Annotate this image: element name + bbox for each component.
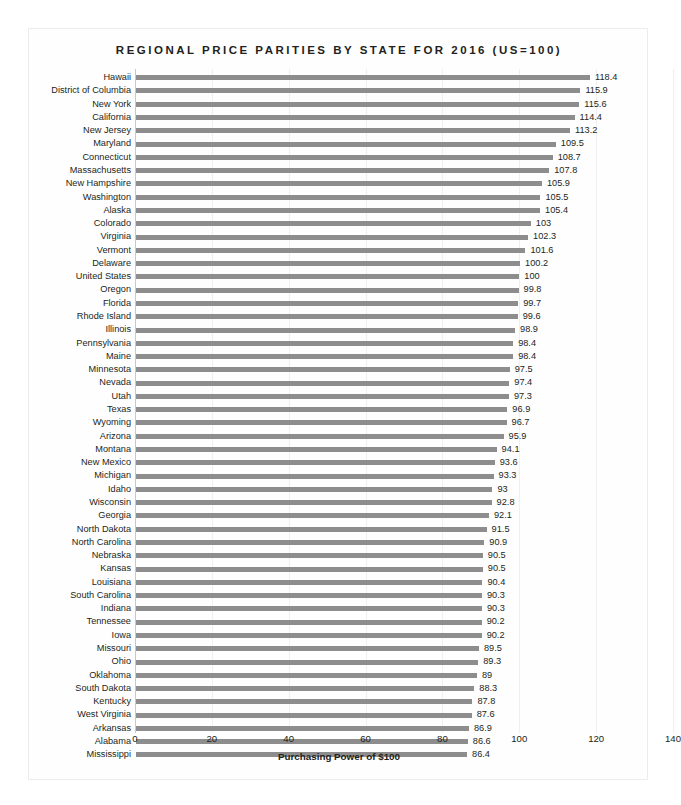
bar — [136, 420, 507, 425]
bar-row: United States100 — [29, 270, 649, 283]
bar — [136, 314, 518, 319]
category-label: Colorado — [0, 217, 131, 230]
bar-value-label: 90.9 — [489, 536, 507, 549]
x-tick-label-100: 100 — [511, 733, 527, 744]
bar-row: Virginia102.3 — [29, 230, 649, 243]
bar — [136, 195, 540, 200]
bar-row: Tennessee90.2 — [29, 615, 649, 628]
category-label: Nebraska — [0, 549, 131, 562]
category-label: Texas — [0, 403, 131, 416]
bar-row: Montana94.1 — [29, 443, 649, 456]
bar-value-label: 114.4 — [580, 111, 602, 124]
bar-row: Colorado103 — [29, 217, 649, 230]
bar-row: Idaho93 — [29, 483, 649, 496]
bar — [136, 447, 497, 452]
bar — [136, 620, 482, 625]
bar — [136, 646, 479, 651]
bar — [136, 487, 492, 492]
category-label: Wyoming — [0, 416, 131, 429]
bar — [136, 75, 590, 80]
bar-value-label: 105.9 — [547, 177, 570, 190]
bar-row: New Mexico93.6 — [29, 456, 649, 469]
bar-value-label: 99.6 — [523, 310, 541, 323]
x-tick-label-0: 0 — [132, 733, 137, 744]
category-label: Nevada — [0, 376, 131, 389]
category-label: Massachusetts — [0, 164, 131, 177]
bar-value-label: 105.4 — [545, 204, 568, 217]
bar-value-label: 109.5 — [561, 137, 584, 150]
x-tick-label-40: 40 — [283, 733, 294, 744]
bar-row: Nebraska90.5 — [29, 549, 649, 562]
bar — [136, 686, 474, 691]
bar-row: South Dakota88.3 — [29, 682, 649, 695]
bar-row: Texas96.9 — [29, 403, 649, 416]
category-label: Michigan — [0, 469, 131, 482]
category-label: California — [0, 111, 131, 124]
category-label: Utah — [0, 390, 131, 403]
category-label: North Dakota — [0, 523, 131, 536]
bar-row: Maine98.4 — [29, 350, 649, 363]
bar — [136, 713, 472, 718]
bar — [136, 513, 489, 518]
bar-row: Vermont101.6 — [29, 244, 649, 257]
bar-value-label: 89.5 — [484, 642, 502, 655]
category-label: Maine — [0, 350, 131, 363]
x-axis-ticks: 020406080100120140 — [29, 733, 649, 753]
category-label: Kentucky — [0, 695, 131, 708]
bar — [136, 168, 549, 173]
category-label: Kansas — [0, 562, 131, 575]
bar-row: Alaska105.4 — [29, 204, 649, 217]
category-label: United States — [0, 270, 131, 283]
bar-row: Oregon99.8 — [29, 283, 649, 296]
bar — [136, 394, 509, 399]
category-label: Illinois — [0, 323, 131, 336]
bar-row: District of Columbia115.9 — [29, 84, 649, 97]
bar-value-label: 90.3 — [487, 589, 505, 602]
bar — [136, 301, 518, 306]
category-label: New Jersey — [0, 124, 131, 137]
bar-value-label: 118.4 — [595, 71, 617, 84]
bar-value-label: 96.7 — [512, 416, 530, 429]
category-label: Connecticut — [0, 151, 131, 164]
bar-value-label: 102.3 — [533, 230, 556, 243]
bar-value-label: 108.7 — [558, 151, 581, 164]
category-label: Delaware — [0, 257, 131, 270]
bar — [136, 221, 531, 226]
page-caption — [40, 790, 640, 800]
bar — [136, 633, 482, 638]
bar-row: Indiana90.3 — [29, 602, 649, 615]
bar — [136, 142, 556, 147]
bar — [136, 341, 513, 346]
bar-value-label: 105.5 — [545, 191, 568, 204]
bar-row: North Carolina90.9 — [29, 536, 649, 549]
bar-row: Arizona95.9 — [29, 430, 649, 443]
x-tick-label-60: 60 — [360, 733, 371, 744]
bar-value-label: 97.3 — [514, 390, 532, 403]
bar-row: Delaware100.2 — [29, 257, 649, 270]
bar-value-label: 107.8 — [554, 164, 577, 177]
category-label: South Dakota — [0, 682, 131, 695]
bar — [136, 407, 507, 412]
bar-value-label: 91.5 — [492, 523, 510, 536]
bar-row: Wyoming96.7 — [29, 416, 649, 429]
chart-title: REGIONAL PRICE PARITIES BY STATE FOR 201… — [29, 44, 649, 56]
bar — [136, 354, 513, 359]
chart-panel: REGIONAL PRICE PARITIES BY STATE FOR 201… — [28, 28, 648, 780]
bar-value-label: 101.6 — [530, 244, 553, 257]
category-label: New York — [0, 98, 131, 111]
category-label: Oklahoma — [0, 669, 131, 682]
bar-value-label: 98.9 — [520, 323, 538, 336]
category-label: Maryland — [0, 137, 131, 150]
bar-row: Florida99.7 — [29, 297, 649, 310]
x-tick-label-120: 120 — [588, 733, 604, 744]
category-label: New Hampshire — [0, 177, 131, 190]
category-label: Hawaii — [0, 71, 131, 84]
bar-row: Maryland109.5 — [29, 137, 649, 150]
bar-value-label: 115.6 — [584, 98, 606, 111]
bar — [136, 660, 478, 665]
bar-value-label: 96.9 — [512, 403, 530, 416]
bar-value-label: 95.9 — [509, 430, 527, 443]
bar-value-label: 90.2 — [487, 629, 505, 642]
bar-row: South Carolina90.3 — [29, 589, 649, 602]
